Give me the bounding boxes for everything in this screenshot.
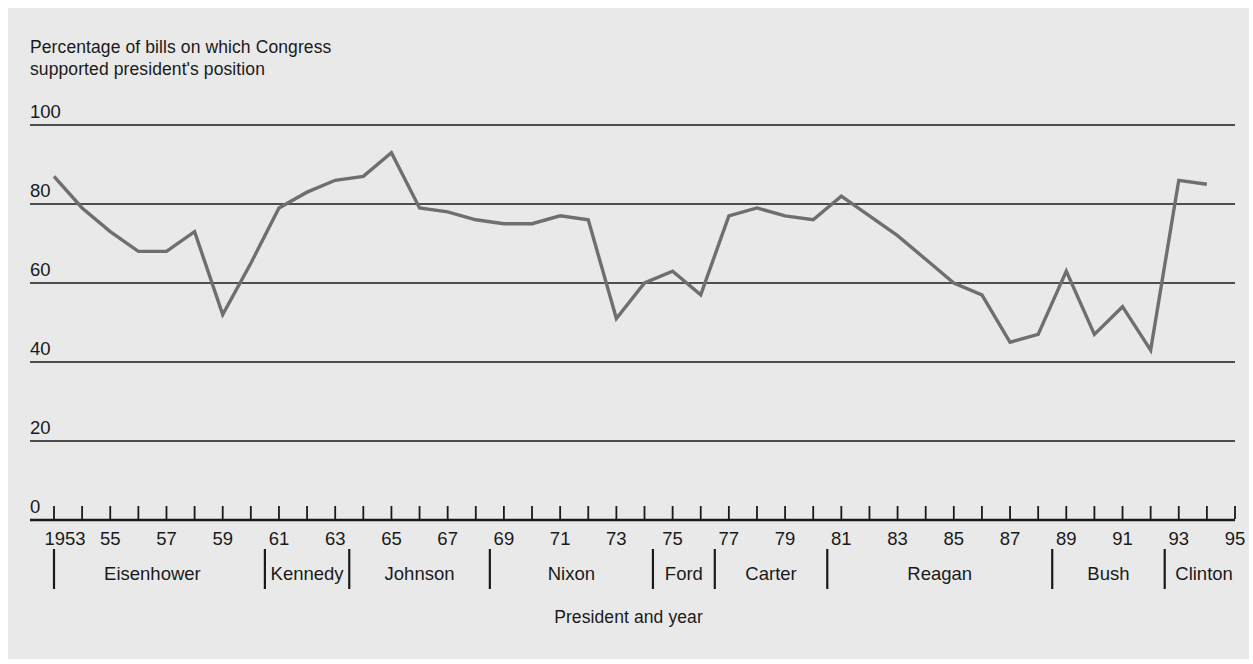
x-tick-label: 91 <box>1112 528 1133 550</box>
x-tick-label: 65 <box>381 528 402 550</box>
x-tick-label: 61 <box>269 528 290 550</box>
x-tick-label: 63 <box>325 528 346 550</box>
x-tick-label: 95 <box>1225 528 1246 550</box>
chart-figure: Percentage of bills on which Congress su… <box>8 8 1249 659</box>
x-tick-label: 83 <box>887 528 908 550</box>
president-label-nixon: Nixon <box>548 563 595 585</box>
x-tick-label: 59 <box>212 528 233 550</box>
y-tick-label: 40 <box>30 338 51 360</box>
x-tick-label: 57 <box>156 528 177 550</box>
x-tick-label: 79 <box>775 528 796 550</box>
x-tick-label: 87 <box>1000 528 1021 550</box>
x-tick-label: 69 <box>494 528 515 550</box>
x-tick-label: 85 <box>944 528 965 550</box>
president-label-johnson: Johnson <box>385 563 455 585</box>
x-tick-label: 77 <box>719 528 740 550</box>
y-tick-label: 80 <box>30 180 51 202</box>
x-tick-label: 55 <box>100 528 121 550</box>
president-label-eisenhower: Eisenhower <box>104 563 201 585</box>
president-label-reagan: Reagan <box>907 563 972 585</box>
x-tick-label: 1953 <box>44 528 85 550</box>
president-label-ford: Ford <box>665 563 703 585</box>
x-tick-label: 67 <box>437 528 458 550</box>
y-tick-label: 60 <box>30 259 51 281</box>
x-tick-label: 89 <box>1056 528 1077 550</box>
president-label-carter: Carter <box>745 563 796 585</box>
president-label-clinton: Clinton <box>1175 563 1233 585</box>
x-tick-label: 73 <box>606 528 627 550</box>
y-tick-label: 20 <box>30 417 51 439</box>
x-tick-label: 71 <box>550 528 571 550</box>
x-tick-label: 75 <box>662 528 683 550</box>
x-tick-label: 93 <box>1168 528 1189 550</box>
y-tick-label: 0 <box>30 496 40 518</box>
president-label-kennedy: Kennedy <box>271 563 344 585</box>
y-tick-label: 100 <box>30 101 61 123</box>
line-chart-plot <box>8 8 1249 659</box>
x-axis-title: President and year <box>8 606 1249 628</box>
data-line-congress-support <box>54 153 1207 351</box>
x-tick-label: 81 <box>831 528 852 550</box>
president-label-bush: Bush <box>1087 563 1129 585</box>
